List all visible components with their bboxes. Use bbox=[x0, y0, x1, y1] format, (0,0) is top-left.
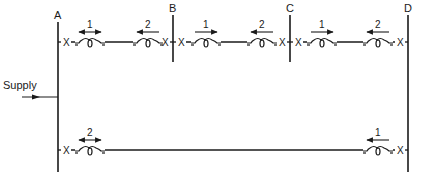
breaker-x-icon: X bbox=[162, 37, 169, 48]
relay-number: 2 bbox=[259, 19, 265, 30]
relay-number: 1 bbox=[375, 127, 381, 138]
breaker-x-icon: X bbox=[397, 37, 404, 48]
relay-number: 2 bbox=[375, 19, 381, 30]
bus-d: D bbox=[404, 2, 412, 172]
relay-number: 2 bbox=[87, 127, 93, 138]
relay-a-d-1: 1 bbox=[363, 127, 393, 155]
breaker-x-icon: X bbox=[279, 37, 286, 48]
breaker-x-icon: X bbox=[63, 145, 70, 156]
breaker-x-icon: X bbox=[178, 37, 185, 48]
relay-number: 1 bbox=[87, 19, 93, 30]
relay-a-d-2: 2 bbox=[75, 127, 105, 155]
bus-label: B bbox=[169, 2, 176, 14]
relay-number: 1 bbox=[319, 19, 325, 30]
relay-a-b-2: 2 bbox=[133, 19, 163, 47]
relay-a-b-1: 1 bbox=[75, 19, 105, 47]
bus-label: C bbox=[286, 2, 294, 14]
bus-label: A bbox=[54, 9, 62, 21]
bus-b: B bbox=[169, 2, 176, 62]
bus-label: D bbox=[404, 2, 412, 14]
feeder-a-d: XX bbox=[58, 145, 408, 156]
breaker-x-icon: X bbox=[63, 37, 70, 48]
ring-main-diagram: ABCDXXXXXXXX12121221Supply bbox=[0, 0, 430, 179]
relay-c-d-1: 1 bbox=[307, 19, 337, 47]
relay-number: 1 bbox=[203, 19, 209, 30]
relay-b-c-2: 2 bbox=[247, 19, 277, 47]
breaker-x-icon: X bbox=[397, 145, 404, 156]
supply-input: Supply bbox=[3, 79, 58, 100]
relay-b-c-1: 1 bbox=[191, 19, 221, 47]
breaker-x-icon: X bbox=[295, 37, 302, 48]
bus-c: C bbox=[286, 2, 294, 62]
supply-label: Supply bbox=[3, 79, 37, 91]
bus-a: A bbox=[54, 9, 62, 172]
relay-c-d-2: 2 bbox=[363, 19, 393, 47]
relay-number: 2 bbox=[145, 19, 151, 30]
